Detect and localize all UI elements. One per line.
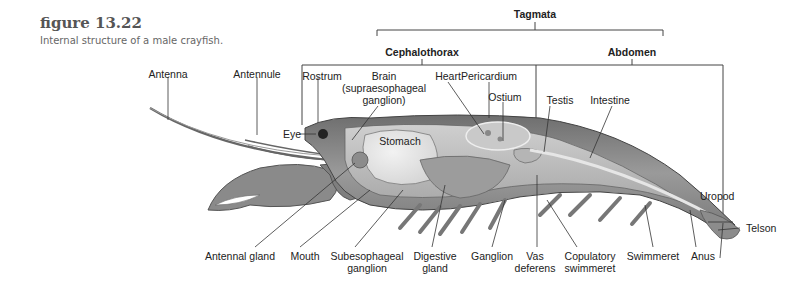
- label-anus: Anus: [691, 250, 715, 262]
- label-copulatory-swimmeret-line2: swimmeret: [565, 262, 616, 274]
- tagma-abdomen: Abdomen: [608, 46, 656, 58]
- label-antennule: Antennule: [233, 68, 280, 80]
- label-telson: Telson: [746, 222, 776, 234]
- label-subesophageal: Subesophageal: [331, 250, 404, 262]
- label-stomach: Stomach: [379, 135, 420, 147]
- label-copulatory-swimmeret: Copulatory: [565, 250, 616, 262]
- label-eye: Eye: [283, 128, 301, 140]
- label-antenna: Antenna: [148, 68, 187, 80]
- label-brain-line3: ganglion): [362, 94, 405, 106]
- label-vas-deferens: Vas: [526, 250, 543, 262]
- label-brain-line2: (supraesophageal: [342, 82, 426, 94]
- label-ostium: Ostium: [488, 91, 521, 103]
- label-testis: Testis: [547, 94, 574, 106]
- label-swimmeret: Swimmeret: [627, 250, 680, 262]
- label-intestine: Intestine: [590, 94, 630, 106]
- pericardium-shape: [466, 122, 530, 150]
- label-vas-deferens-line2: deferens: [515, 262, 556, 274]
- label-heart: Heart: [435, 70, 461, 82]
- label-pericardium: Pericardium: [461, 70, 517, 82]
- tagma-cephalothorax: Cephalothorax: [385, 46, 459, 58]
- label-ganglion: Ganglion: [471, 250, 513, 262]
- label-uropod: Uropod: [700, 190, 734, 202]
- label-brain: Brain: [372, 70, 397, 82]
- label-rostrum: Rostrum: [302, 70, 342, 82]
- eye-shape: [318, 129, 328, 139]
- label-digestive-gland: Digestive: [413, 250, 456, 262]
- label-digestive-gland-line2: gland: [422, 262, 448, 274]
- label-mouth: Mouth: [290, 250, 319, 262]
- tagmata-title: Tagmata: [514, 8, 556, 20]
- label-antennal-gland: Antennal gland: [205, 250, 275, 262]
- body-shape: [305, 115, 740, 239]
- label-subesophageal-line2: ganglion: [347, 262, 387, 274]
